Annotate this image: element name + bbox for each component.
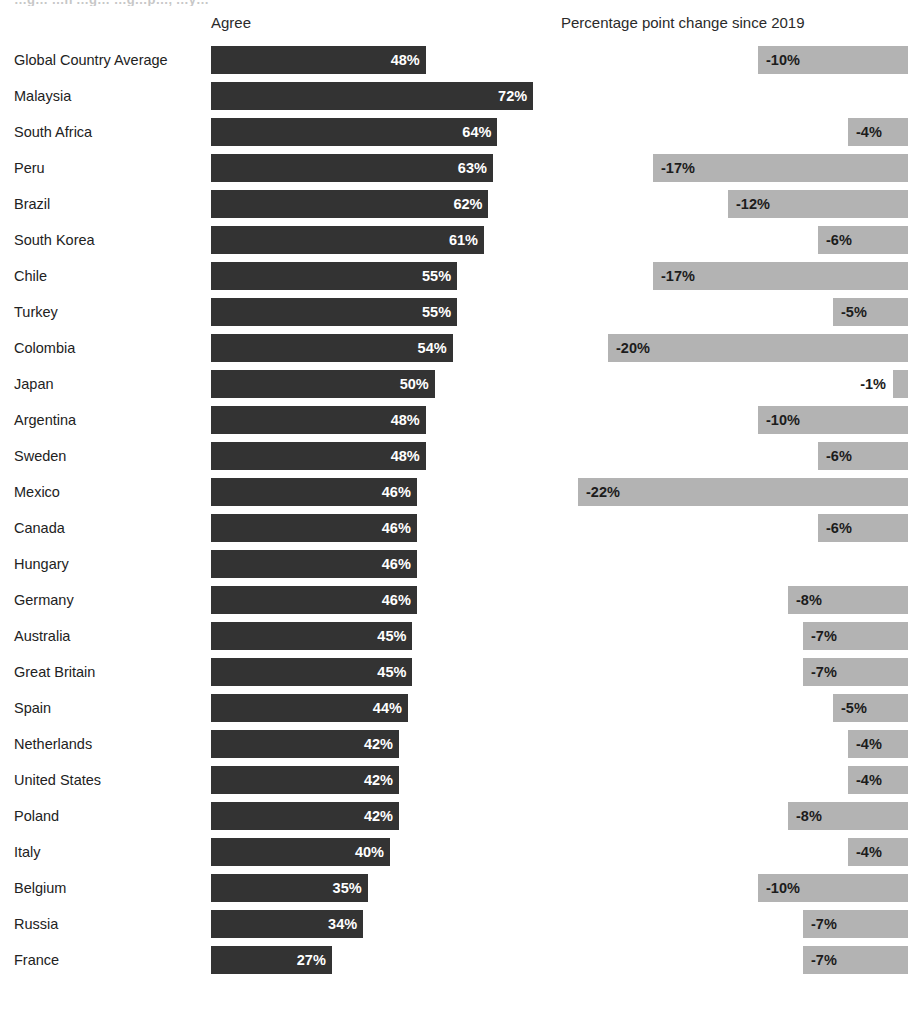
row-category-label: France [14, 946, 204, 974]
row-category-label: Hungary [14, 550, 204, 578]
change-bar[interactable]: -22% [578, 478, 908, 506]
change-bar[interactable]: -5% [833, 694, 908, 722]
agree-bar[interactable]: 62% [211, 190, 488, 218]
agree-bar[interactable]: 55% [211, 262, 457, 290]
row-category-label: Poland [14, 802, 204, 830]
row-category-label: Global Country Average [14, 46, 204, 74]
change-bar[interactable]: -7% [803, 622, 908, 650]
change-bar[interactable]: -5% [833, 298, 908, 326]
agree-bar[interactable]: 48% [211, 406, 426, 434]
change-bar[interactable]: -10% [758, 874, 908, 902]
agree-bar[interactable]: 45% [211, 658, 412, 686]
row-category-label: Peru [14, 154, 204, 182]
agree-value-label: 35% [333, 874, 362, 902]
change-value-label: -10% [766, 46, 800, 74]
change-bar[interactable]: -7% [803, 658, 908, 686]
agree-bar[interactable]: 40% [211, 838, 390, 866]
change-bar[interactable]: -1% [893, 370, 908, 398]
change-value-label: -6% [826, 226, 852, 254]
agree-bar[interactable]: 42% [211, 766, 399, 794]
chart-row: Global Country Average48%-10% [0, 46, 910, 82]
agree-bar-track: 35% [211, 874, 560, 902]
chart-row: South Korea61%-6% [0, 226, 910, 262]
change-bar[interactable]: -4% [848, 118, 908, 146]
agree-bar[interactable]: 42% [211, 802, 399, 830]
agree-value-label: 50% [400, 370, 429, 398]
change-bar[interactable]: -17% [653, 262, 908, 290]
change-bar[interactable]: -4% [848, 730, 908, 758]
agree-bar-track: 61% [211, 226, 560, 254]
change-bar-track [563, 550, 908, 578]
row-category-label: Italy [14, 838, 204, 866]
agree-bar[interactable]: 42% [211, 730, 399, 758]
agree-bar[interactable]: 34% [211, 910, 363, 938]
chart-row: Turkey55%-5% [0, 298, 910, 334]
chart-row: Spain44%-5% [0, 694, 910, 730]
change-bar[interactable]: -8% [788, 586, 908, 614]
change-value-label: -22% [586, 478, 620, 506]
chart-row: France27%-7% [0, 946, 910, 982]
agree-bar[interactable]: 64% [211, 118, 497, 146]
change-bar-track: -22% [563, 478, 908, 506]
chart-row: Poland42%-8% [0, 802, 910, 838]
agree-bar[interactable]: 27% [211, 946, 332, 974]
agree-bar[interactable]: 48% [211, 442, 426, 470]
row-category-label: Germany [14, 586, 204, 614]
change-bar[interactable]: -17% [653, 154, 908, 182]
agree-bar-track: 48% [211, 406, 560, 434]
agree-bar-track: 63% [211, 154, 560, 182]
agree-value-label: 48% [391, 406, 420, 434]
agree-bar[interactable]: 63% [211, 154, 493, 182]
agree-bar[interactable]: 46% [211, 514, 417, 542]
change-value-label: -7% [811, 910, 837, 938]
agree-bar[interactable]: 46% [211, 586, 417, 614]
change-bar[interactable]: -7% [803, 946, 908, 974]
agree-value-label: 46% [382, 550, 411, 578]
agree-bar[interactable]: 48% [211, 46, 426, 74]
agree-bar[interactable]: 61% [211, 226, 484, 254]
agree-value-label: 72% [498, 82, 527, 110]
chart-row: Netherlands42%-4% [0, 730, 910, 766]
agree-value-label: 34% [328, 910, 357, 938]
agree-value-label: 46% [382, 478, 411, 506]
change-bar[interactable]: -6% [818, 514, 908, 542]
row-category-label: Australia [14, 622, 204, 650]
change-bar-track: -17% [563, 262, 908, 290]
chart-row: Malaysia72% [0, 82, 910, 118]
agree-value-label: 46% [382, 514, 411, 542]
change-value-label: -1% [860, 370, 886, 398]
change-bar[interactable]: -7% [803, 910, 908, 938]
change-bar[interactable]: -10% [758, 46, 908, 74]
chart-row: Belgium35%-10% [0, 874, 910, 910]
change-value-label: -12% [736, 190, 770, 218]
agree-bar[interactable]: 55% [211, 298, 457, 326]
chart-row: Colombia54%-20% [0, 334, 910, 370]
agree-value-label: 55% [422, 298, 451, 326]
agree-bar[interactable]: 54% [211, 334, 453, 362]
chart-rows: Global Country Average48%-10%Malaysia72%… [0, 46, 910, 982]
agree-bar[interactable]: 35% [211, 874, 368, 902]
change-bar[interactable]: -12% [728, 190, 908, 218]
agree-bar[interactable]: 46% [211, 550, 417, 578]
agree-bar[interactable]: 46% [211, 478, 417, 506]
agree-bar-track: 44% [211, 694, 560, 722]
change-value-label: -7% [811, 946, 837, 974]
change-bar[interactable]: -6% [818, 442, 908, 470]
change-bar[interactable]: -4% [848, 838, 908, 866]
change-bar[interactable]: -6% [818, 226, 908, 254]
change-bar[interactable]: -10% [758, 406, 908, 434]
chart-row: Italy40%-4% [0, 838, 910, 874]
change-bar-track: -5% [563, 298, 908, 326]
agree-value-label: 61% [449, 226, 478, 254]
row-category-label: Japan [14, 370, 204, 398]
agree-bar[interactable]: 45% [211, 622, 412, 650]
agree-bar[interactable]: 72% [211, 82, 533, 110]
agree-bar[interactable]: 44% [211, 694, 408, 722]
agree-bar-track: 45% [211, 658, 560, 686]
chart-row: Canada46%-6% [0, 514, 910, 550]
agree-value-label: 40% [355, 838, 384, 866]
change-bar[interactable]: -4% [848, 766, 908, 794]
change-bar[interactable]: -8% [788, 802, 908, 830]
change-bar[interactable]: -20% [608, 334, 908, 362]
agree-bar[interactable]: 50% [211, 370, 435, 398]
